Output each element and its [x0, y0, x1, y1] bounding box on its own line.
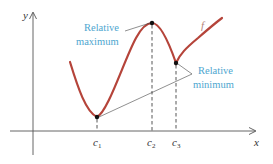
- relative-max-point-c2: [150, 21, 154, 25]
- tick-label-c2: c2: [147, 136, 156, 150]
- function-label: f: [201, 19, 206, 31]
- y-axis-label: y: [22, 9, 28, 21]
- annotation-max-line1: Relative: [84, 22, 119, 33]
- annotation-min-line1: Relative: [198, 65, 233, 76]
- tick-label-c3: c3: [172, 136, 181, 150]
- tick-label-c1: c1: [93, 136, 102, 150]
- annotation-max-line2: maximum: [76, 36, 119, 47]
- relative-extrema-diagram: x y Relative maximum Relative minimum f …: [0, 0, 273, 164]
- annotation-min-line2: minimum: [193, 79, 234, 90]
- leader-minimum-c3: [178, 64, 192, 74]
- leader-maximum: [125, 23, 150, 31]
- x-axis-label: x: [253, 136, 259, 148]
- relative-min-point-c1: [95, 115, 99, 119]
- leader-minimum-c1: [99, 74, 192, 117]
- relative-min-point-c3: [174, 61, 178, 65]
